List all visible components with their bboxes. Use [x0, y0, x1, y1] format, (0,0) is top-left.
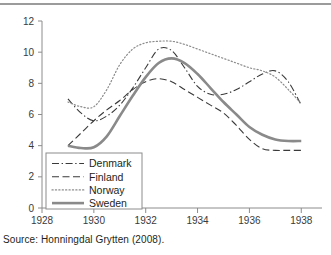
y-tick-label: 6 — [28, 109, 34, 120]
line-chart-figure: 024681012 192819301932193419361938 Denma… — [0, 5, 331, 230]
legend-label-sweden: Sweden — [89, 197, 127, 209]
x-tick-label: 1936 — [238, 215, 261, 226]
x-tick-label: 1938 — [290, 215, 313, 226]
y-tick-label: 10 — [23, 47, 35, 58]
series-line-norway — [68, 41, 301, 108]
chart-legend: DenmarkFinlandNorwaySweden — [46, 153, 142, 209]
y-tick-label: 4 — [28, 140, 34, 151]
y-axis-tick-marks — [38, 21, 42, 208]
y-tick-label: 8 — [28, 78, 34, 89]
y-tick-label: 2 — [28, 171, 34, 182]
y-axis-tick-labels: 024681012 — [23, 16, 35, 214]
x-tick-label: 1928 — [31, 215, 54, 226]
y-tick-label: 12 — [23, 16, 35, 27]
x-tick-label: 1934 — [186, 215, 209, 226]
x-tick-label: 1930 — [83, 215, 106, 226]
x-axis-tick-labels: 192819301932193419361938 — [31, 215, 313, 226]
legend-label-finland: Finland — [89, 171, 124, 183]
chart-svg: 024681012 192819301932193419361938 Denma… — [0, 5, 331, 230]
x-tick-label: 1932 — [135, 215, 158, 226]
series-line-denmark — [68, 47, 301, 120]
chart-series-group — [68, 41, 301, 150]
source-note: Source: Honningdal Grytten (2008). — [3, 234, 164, 245]
y-tick-label: 0 — [28, 203, 34, 214]
legend-label-denmark: Denmark — [89, 157, 132, 169]
legend-label-norway: Norway — [89, 184, 125, 196]
